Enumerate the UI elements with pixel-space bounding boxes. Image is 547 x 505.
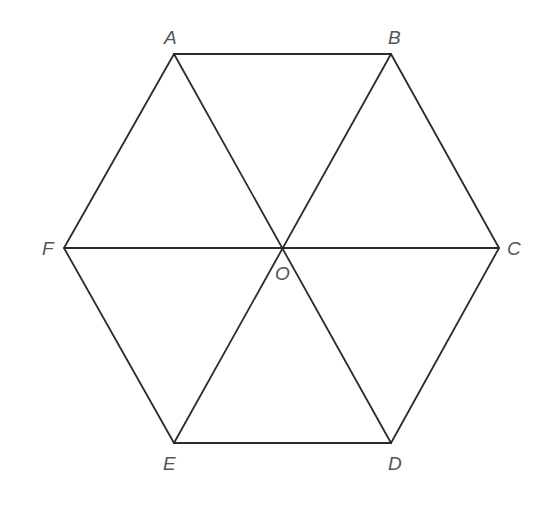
label-e: E bbox=[163, 453, 176, 474]
label-a: A bbox=[163, 27, 177, 48]
side-bc bbox=[391, 54, 499, 248]
label-c: C bbox=[507, 238, 521, 259]
label-d: D bbox=[388, 453, 402, 474]
side-ef bbox=[64, 248, 174, 443]
hexagon-diagram: A B C D E F O bbox=[0, 0, 547, 505]
hexagon-diagonals bbox=[64, 54, 499, 443]
side-cd bbox=[391, 248, 499, 443]
label-o: O bbox=[275, 263, 290, 284]
side-fa bbox=[64, 54, 174, 248]
label-b: B bbox=[388, 27, 401, 48]
label-f: F bbox=[42, 238, 55, 259]
